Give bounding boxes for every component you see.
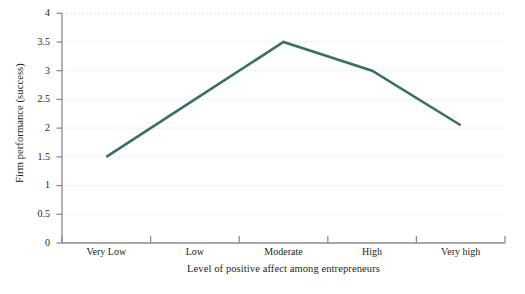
- x-axis-title: Level of positive affect among entrepren…: [62, 263, 505, 274]
- x-tick-label-high: High: [328, 247, 417, 257]
- x-tick-label-very-low: Very Low: [62, 247, 151, 257]
- y-axis-ticks: [57, 13, 63, 243]
- x-tick-label-moderate: Moderate: [239, 247, 328, 257]
- x-tick-label-very-high: Very high: [416, 247, 505, 257]
- x-tick-label-low: Low: [151, 247, 240, 257]
- x-axis-ticks: [62, 236, 505, 243]
- chart-figure: 4 3.5 3 2.5 2 1.5 1 0.5 0 Very Low Low M…: [0, 0, 525, 294]
- y-axis-title: Firm performance (success): [14, 0, 30, 248]
